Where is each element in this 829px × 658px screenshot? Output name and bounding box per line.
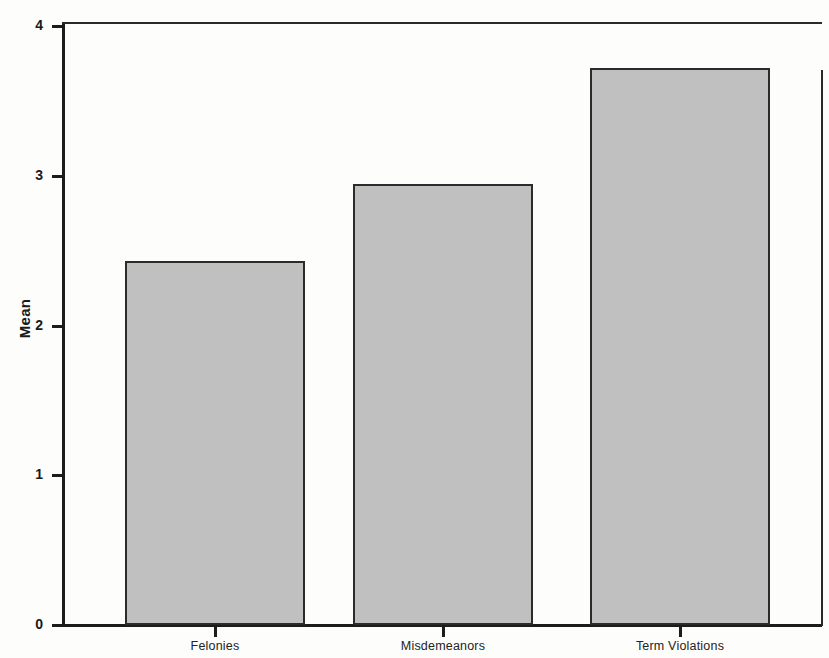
y-tick-label: 2: [3, 317, 43, 333]
plot-frame-right: [821, 70, 823, 626]
y-tick-label: 1: [3, 466, 43, 482]
y-tick-mark: [52, 474, 63, 477]
x-tick-label: Term Violations: [580, 639, 780, 653]
x-tick-mark: [442, 627, 445, 637]
y-tick-mark: [52, 25, 63, 28]
x-tick-mark: [679, 627, 682, 637]
y-tick-label: 3: [3, 167, 43, 183]
bar-misdemeanors: [353, 184, 533, 625]
bar-term-violations: [590, 68, 770, 625]
x-tick-mark: [214, 627, 217, 637]
y-tick-mark: [52, 325, 63, 328]
plot-frame-top: [62, 22, 822, 24]
y-tick-label: 0: [3, 616, 43, 632]
x-tick-label: Felonies: [115, 639, 315, 653]
y-tick-mark: [52, 624, 63, 627]
bar-chart: Mean 01234 FeloniesMisdemeanorsTerm Viol…: [0, 0, 829, 658]
y-tick-label: 4: [3, 17, 43, 33]
bar-felonies: [125, 261, 305, 625]
y-tick-mark: [52, 175, 63, 178]
x-tick-label: Misdemeanors: [343, 639, 543, 653]
